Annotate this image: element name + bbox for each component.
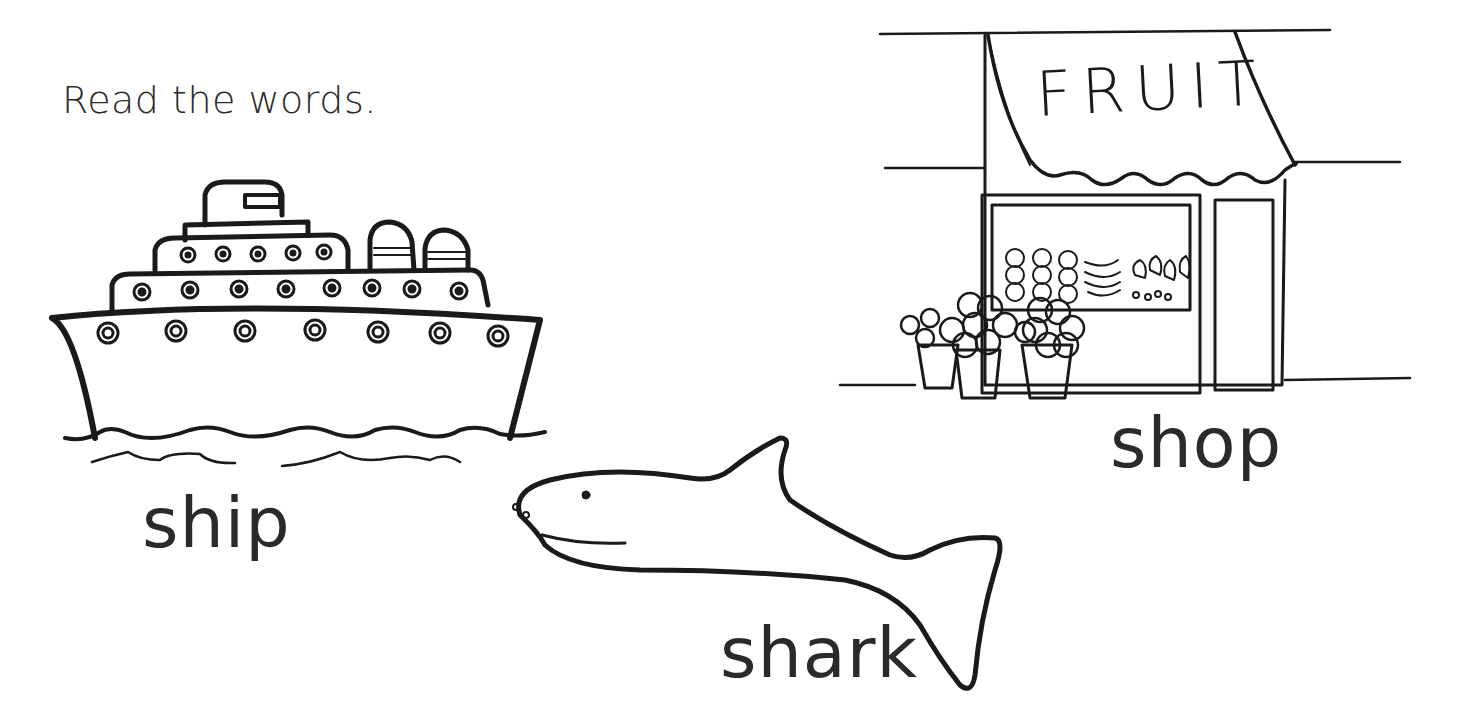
instruction-text: Read the words. <box>62 78 377 122</box>
ship-illustration <box>40 170 560 480</box>
word-ship: ship <box>142 482 291 564</box>
word-shark: shark <box>720 612 918 694</box>
shop-sign: FRUIT <box>1034 46 1268 131</box>
word-shop: shop <box>1110 402 1282 484</box>
